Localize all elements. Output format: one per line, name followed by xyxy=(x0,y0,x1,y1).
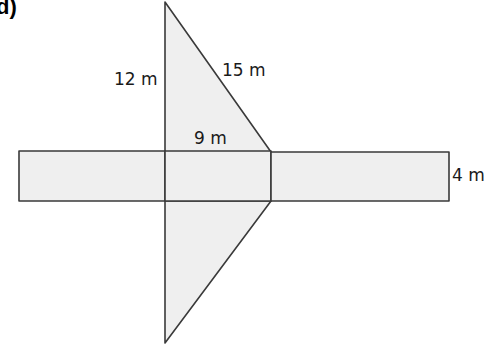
width-label: 4 m xyxy=(452,165,485,185)
bottom-triangle-face xyxy=(165,201,271,343)
base-label: 9 m xyxy=(194,128,227,148)
triangular-prism-net xyxy=(0,0,489,344)
height-label: 12 m xyxy=(114,69,158,89)
left-rect-face xyxy=(19,151,165,201)
middle-rect-face xyxy=(165,151,271,201)
hypotenuse-label: 15 m xyxy=(222,60,266,80)
right-rect-face xyxy=(271,152,449,201)
